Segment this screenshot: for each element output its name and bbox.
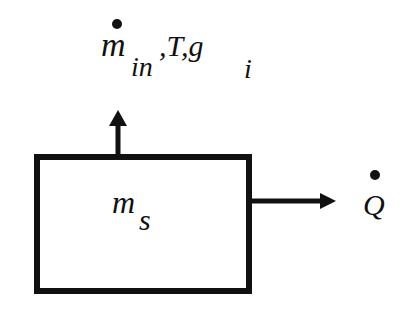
svg-text:,T,g: ,T,g (159, 29, 203, 62)
svg-text:in: in (131, 51, 153, 82)
inflow-arrow (109, 110, 127, 155)
svg-text:m: m (112, 184, 135, 220)
inflow-label: m in ,T,g i (101, 19, 252, 84)
system-mass-label: m s (112, 184, 151, 236)
svg-text:s: s (139, 203, 151, 236)
svg-text:m: m (101, 26, 126, 63)
svg-text:Q: Q (363, 188, 385, 221)
svg-text:i: i (244, 53, 252, 84)
dot-icon (370, 170, 380, 180)
control-volume-diagram: m in ,T,g i m s Q (0, 0, 415, 321)
heat-arrow (251, 193, 336, 209)
heat-label: Q (363, 170, 385, 221)
